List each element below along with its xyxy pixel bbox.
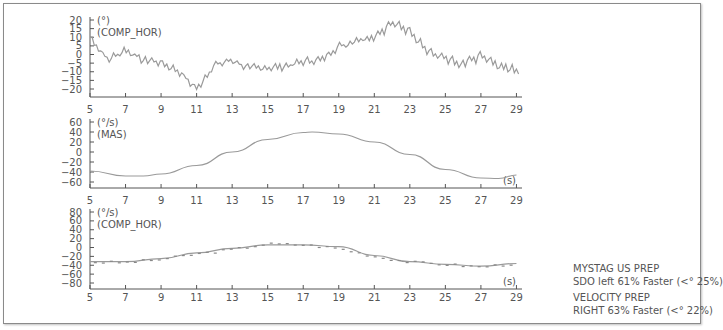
x-tick-label: 7	[122, 104, 128, 115]
unit-label: (°/s)	[97, 207, 118, 218]
x-tick-label: 17	[297, 292, 310, 303]
x-tick-label: 29	[510, 292, 523, 303]
y-tick-label: −80	[61, 278, 82, 289]
panel-position: 20151050−5−10−15−20(°)(COMP_HOR)57911131…	[61, 15, 523, 116]
x-tick-label: 11	[190, 195, 203, 206]
x-tick-label: 5	[87, 292, 93, 303]
legend-line-3: VELOCITY PREP	[573, 291, 723, 304]
legend-line-1: MYSTAG US PREP	[573, 262, 723, 275]
x-tick-label: 7	[122, 195, 128, 206]
x-tick-label: 27	[475, 195, 488, 206]
x-tick-label: 9	[158, 292, 164, 303]
x-tick-label: 21	[368, 104, 381, 115]
x-tick-label: 29	[510, 104, 523, 115]
x-tick-label: 17	[297, 104, 310, 115]
x-tick-label: 9	[158, 104, 164, 115]
y-tick-label: −60	[61, 177, 82, 188]
x-tick-label: 15	[261, 195, 274, 206]
x-tick-label: 19	[332, 195, 345, 206]
x-tick-label: 9	[158, 195, 164, 206]
legend-line-4: RIGHT 63% Faster (<° 22%)	[573, 304, 723, 317]
x-tick-label: 25	[439, 195, 452, 206]
x-tick-label: 19	[332, 292, 345, 303]
x-tick-label: 5	[87, 104, 93, 115]
x-tick-label: 21	[368, 195, 381, 206]
x-tick-label: 13	[226, 292, 239, 303]
x-tick-label: 11	[190, 104, 203, 115]
x-tick-label: 15	[261, 104, 274, 115]
x-tick-label: 11	[190, 292, 203, 303]
x-tick-label: 15	[261, 292, 274, 303]
x-tick-label: 27	[475, 104, 488, 115]
unit-label: (°)	[97, 15, 110, 26]
mas-curve	[90, 132, 516, 179]
x-axis-unit: (s)	[503, 276, 516, 287]
x-tick-label: 19	[332, 104, 345, 115]
x-tick-label: 21	[368, 292, 381, 303]
panel-slow-phase-velocity: 806040200−20−40−60−80(°/s)(COMP_HOR)5791…	[61, 207, 523, 304]
panel-mas-velocity: 6040200−20−40−60(°/s)(MAS)57911131517192…	[61, 117, 523, 207]
x-tick-label: 13	[226, 104, 239, 115]
x-tick-label: 25	[439, 104, 452, 115]
signal-label: (COMP_HOR)	[97, 27, 162, 39]
legend-line-2: SDO left 61% Faster (<° 25%)	[573, 275, 723, 288]
signal-label: (COMP_HOR)	[97, 219, 162, 231]
legend: MYSTAG US PREP SDO left 61% Faster (<° 2…	[573, 262, 723, 317]
x-tick-label: 29	[510, 195, 523, 206]
y-tick-label: −20	[61, 84, 82, 95]
x-tick-label: 23	[403, 195, 416, 206]
x-tick-label: 5	[87, 195, 93, 206]
x-tick-label: 13	[226, 195, 239, 206]
fit-curve	[90, 245, 516, 266]
x-tick-label: 25	[439, 292, 452, 303]
x-tick-label: 17	[297, 195, 310, 206]
x-tick-label: 27	[475, 292, 488, 303]
signal-label: (MAS)	[97, 129, 127, 140]
x-tick-label: 7	[122, 292, 128, 303]
x-tick-label: 23	[403, 104, 416, 115]
x-tick-label: 23	[403, 292, 416, 303]
unit-label: (°/s)	[97, 117, 118, 128]
